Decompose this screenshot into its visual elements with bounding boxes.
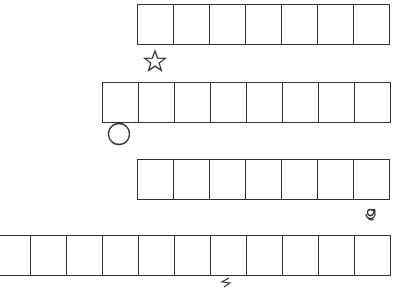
grid-cell[interactable] <box>0 236 31 275</box>
lightning-icon <box>218 277 234 288</box>
grid-cell[interactable] <box>283 83 319 122</box>
grid-cell[interactable] <box>138 160 174 199</box>
grid-cell[interactable] <box>282 5 318 44</box>
strip-1 <box>137 4 390 45</box>
circle-icon <box>107 122 131 146</box>
grid-cell[interactable] <box>67 236 103 275</box>
grid-cell[interactable] <box>174 5 210 44</box>
grid-cell[interactable] <box>175 83 211 122</box>
grid-cell[interactable] <box>103 83 139 122</box>
grid-cell[interactable] <box>354 160 390 199</box>
grid-cell[interactable] <box>319 83 355 122</box>
grid-cell[interactable] <box>103 236 139 275</box>
strip-3 <box>137 159 390 200</box>
grid-cell[interactable] <box>211 236 247 275</box>
grid-cell[interactable] <box>175 236 211 275</box>
grid-cell[interactable] <box>246 5 282 44</box>
grid-cell[interactable] <box>354 5 390 44</box>
grid-cell[interactable] <box>139 83 175 122</box>
grid-cell[interactable] <box>283 236 319 275</box>
grid-cell[interactable] <box>355 236 391 275</box>
grid-cell[interactable] <box>210 5 246 44</box>
grid-cell[interactable] <box>282 160 318 199</box>
grid-cell[interactable] <box>318 160 354 199</box>
grid-cell[interactable] <box>318 5 354 44</box>
grid-cell[interactable] <box>211 83 247 122</box>
grid-cell[interactable] <box>319 236 355 275</box>
grid-cell[interactable] <box>210 160 246 199</box>
spiral-icon <box>362 201 382 221</box>
grid-cell[interactable] <box>247 236 283 275</box>
star-icon <box>143 49 167 73</box>
grid-cell[interactable] <box>138 5 174 44</box>
grid-cell[interactable] <box>247 83 283 122</box>
grid-cell[interactable] <box>139 236 175 275</box>
grid-cell[interactable] <box>355 83 391 122</box>
strip-4 <box>0 235 391 276</box>
grid-cell[interactable] <box>174 160 210 199</box>
grid-cell[interactable] <box>31 236 67 275</box>
grid-cell[interactable] <box>246 160 282 199</box>
strip-2 <box>102 82 391 123</box>
